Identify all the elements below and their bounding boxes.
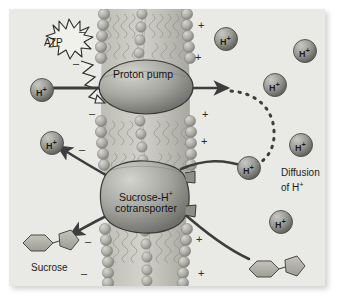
h-ion-outer-2 — [294, 40, 317, 63]
h-ion-diffusing — [238, 157, 261, 180]
membrane-charge-minus: – — [73, 57, 79, 69]
membrane-charge-minus: – — [89, 107, 95, 119]
diagram-panel: H+ H+ H+ H+ H+ H+ H+ H+ – – – – – – + + — [9, 9, 325, 286]
diffusion-label-charge: + — [299, 180, 303, 189]
membrane-charge-plus: + — [196, 233, 202, 245]
diffusion-label-line1: Diffusion — [281, 167, 320, 178]
diffusion-label-line2: of H — [281, 182, 299, 193]
h-ion-inner-lower — [41, 132, 64, 155]
cotransporter-label-line1: Sucrose-H — [119, 191, 169, 203]
h-ion-outer-3 — [264, 74, 287, 97]
sucrose-inner-molecule — [23, 230, 79, 251]
membrane-charge-minus: – — [79, 143, 85, 155]
membrane-charge-minus: – — [81, 267, 87, 279]
membrane-charge-plus: + — [202, 108, 208, 120]
membrane-charge-plus: + — [201, 135, 207, 147]
h-ion-outer-6 — [270, 211, 293, 234]
sucrose-outer-molecule — [249, 256, 305, 277]
plasma-membrane — [95, 9, 196, 286]
arrow-proton-diffusion-dashed — [231, 91, 274, 162]
cotransporter-label-line2: cotransporter — [115, 202, 177, 214]
cotransporter-label-charge: + — [169, 189, 173, 198]
membrane-charge-plus: + — [198, 267, 204, 279]
h-ion-outer-1 — [215, 28, 238, 51]
cotransporter-label: Sucrose-H+ cotransporter — [107, 190, 185, 215]
proton-pump-label: Proton pump — [113, 69, 173, 81]
membrane-charge-plus: + — [198, 19, 204, 31]
sucrose-inner-label: Sucrose — [31, 262, 68, 273]
membrane-charge-minus: – — [85, 235, 91, 247]
figure-container: H+ H+ H+ H+ H+ H+ H+ H+ – – – – – – + + — [0, 0, 342, 303]
diffusion-label: Diffusion of H+ — [281, 167, 320, 194]
arrow-sucrose-into-cotransporter — [181, 211, 249, 259]
h-ion-inner-upper — [31, 79, 54, 102]
membrane-charge-plus: + — [195, 51, 201, 63]
membrane-charge-minus: – — [79, 25, 85, 37]
atp-label: ATP — [44, 37, 63, 48]
h-ion-outer-4 — [290, 134, 313, 157]
diagram-svg — [9, 9, 325, 286]
